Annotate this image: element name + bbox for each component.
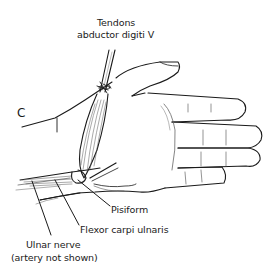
label-flexor-carpi-ulnaris: Flexor carpi ulnaris bbox=[80, 224, 169, 235]
panel-letter: C bbox=[17, 106, 25, 120]
label-artery-not-shown: (artery not shown) bbox=[11, 252, 98, 263]
label-pisiform: Pisiform bbox=[111, 204, 148, 215]
label-ulnar-nerve: Ulnar nerve bbox=[26, 239, 81, 250]
hand-illustration bbox=[0, 0, 276, 278]
label-tendons: Tendons bbox=[97, 17, 135, 28]
label-abductor-digiti-v: abductor digiti V bbox=[77, 29, 154, 40]
anatomy-figure: C Tendons abductor digiti V Pisiform Fle… bbox=[0, 0, 276, 278]
